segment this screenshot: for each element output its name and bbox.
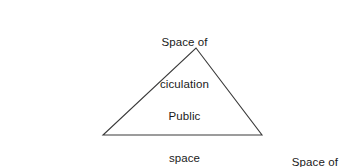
diagram-canvas: Space of ciculation Public space Space o… [0,0,339,167]
vertex-label-space-of-meeting-line1: Space of [292,155,338,167]
vertex-label-circulation-line1: Space of [30,35,339,49]
center-label-public-space-line1: Public [30,109,339,123]
vertex-label-space-of-use: Space of use [13,139,81,167]
vertex-label-space-of-meeting: Space of meeting [292,127,338,167]
